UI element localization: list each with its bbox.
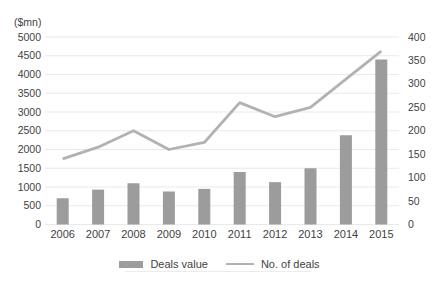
svg-text:300: 300 <box>408 77 426 89</box>
svg-text:2000: 2000 <box>18 143 42 155</box>
chart-figure: ($mn) 0500100015002000250030003500400045… <box>0 0 439 286</box>
svg-text:500: 500 <box>23 199 41 211</box>
svg-text:1000: 1000 <box>18 181 42 193</box>
legend-label-no-of-deals: No. of deals <box>261 259 320 270</box>
svg-text:0: 0 <box>35 218 41 230</box>
svg-text:200: 200 <box>408 124 426 136</box>
svg-text:2014: 2014 <box>334 228 358 240</box>
svg-text:5000: 5000 <box>18 31 42 43</box>
svg-text:250: 250 <box>408 101 426 113</box>
faint-divider-line <box>125 271 311 272</box>
svg-text:150: 150 <box>408 148 426 160</box>
plot-area: 0500100015002000250030003500400045005000… <box>18 31 426 241</box>
svg-text:2006: 2006 <box>50 228 74 240</box>
svg-text:100: 100 <box>408 171 426 183</box>
bar-series-swatch-icon <box>119 261 143 268</box>
svg-text:3500: 3500 <box>18 87 42 99</box>
svg-text:4500: 4500 <box>18 49 42 61</box>
svg-text:2500: 2500 <box>18 124 42 136</box>
svg-text:2012: 2012 <box>263 228 287 240</box>
line-series-swatch-icon <box>226 263 254 265</box>
legend-item-deals-value: Deals value <box>119 259 207 270</box>
svg-text:2009: 2009 <box>157 228 181 240</box>
legend-label-deals-value: Deals value <box>150 259 207 270</box>
svg-text:2013: 2013 <box>298 228 322 240</box>
svg-text:50: 50 <box>408 195 420 207</box>
svg-text:2015: 2015 <box>369 228 393 240</box>
svg-text:0: 0 <box>408 218 414 230</box>
svg-text:4000: 4000 <box>18 68 42 80</box>
svg-text:3000: 3000 <box>18 106 42 118</box>
svg-text:400: 400 <box>408 31 426 43</box>
left-axis-unit-label: ($mn) <box>14 16 41 28</box>
legend-item-no-of-deals: No. of deals <box>226 259 320 270</box>
svg-text:2010: 2010 <box>192 228 216 240</box>
combo-chart: ($mn) 0500100015002000250030003500400045… <box>0 0 439 250</box>
svg-text:2011: 2011 <box>228 228 252 240</box>
svg-text:2007: 2007 <box>86 228 110 240</box>
svg-text:2008: 2008 <box>121 228 145 240</box>
svg-text:1500: 1500 <box>18 162 42 174</box>
svg-text:350: 350 <box>408 54 426 66</box>
